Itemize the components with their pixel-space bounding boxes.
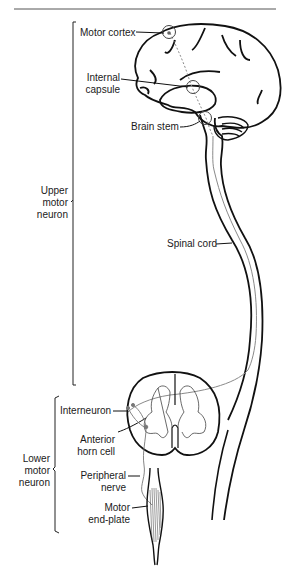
label-interneuron: Interneuron bbox=[60, 405, 111, 417]
label-lower-2: motor bbox=[12, 465, 50, 477]
motor-pathway-diagram bbox=[0, 0, 286, 578]
lower-motor-neuron-bracket bbox=[53, 396, 59, 533]
label-motor-endplate-line2: end-plate bbox=[80, 514, 130, 526]
corticospinal-tract bbox=[128, 136, 256, 412]
label-peripheral-nerve-line2: nerve bbox=[70, 482, 126, 494]
brain-stem-leader bbox=[180, 121, 200, 127]
label-internal-capsule-line2: capsule bbox=[80, 84, 120, 96]
label-upper-1: Upper bbox=[28, 185, 68, 197]
internal-capsule-leader bbox=[121, 79, 188, 87]
label-lower-3: neuron bbox=[12, 477, 50, 489]
label-spinal-cord: Spinal cord bbox=[167, 238, 217, 250]
muscle bbox=[147, 468, 163, 565]
spinal-cord bbox=[200, 115, 262, 520]
label-motor-cortex: Motor cortex bbox=[80, 27, 136, 39]
label-brain-stem: Brain stem bbox=[131, 121, 179, 133]
internal-capsule-marker bbox=[187, 81, 200, 94]
label-internal-capsule-line1: Internal bbox=[80, 72, 120, 84]
spinal-cord-leader bbox=[216, 243, 232, 244]
label-anterior-horn-line1: Anterior bbox=[70, 434, 115, 446]
upper-motor-neuron-bracket bbox=[73, 22, 76, 385]
motor-endplate-leader bbox=[132, 506, 148, 508]
label-anterior-horn-line2: horn cell bbox=[70, 446, 115, 458]
label-peripheral-nerve-line1: Peripheral bbox=[70, 470, 126, 482]
label-lower-1: Lower bbox=[12, 453, 50, 465]
label-upper-3: neuron bbox=[28, 209, 68, 221]
label-motor-endplate-line1: Motor bbox=[80, 502, 130, 514]
label-upper-2: motor bbox=[28, 197, 68, 209]
